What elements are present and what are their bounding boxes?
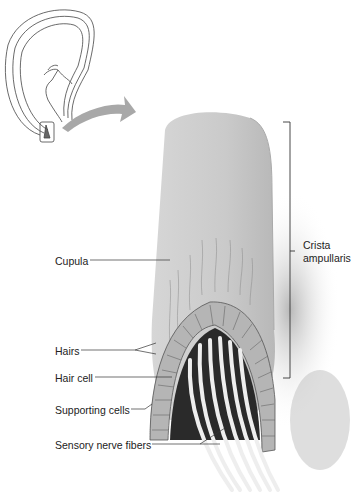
label-hairs: Hairs — [55, 345, 80, 357]
label-crista-line1: Crista — [303, 239, 330, 251]
label-supporting-cells: Supporting cells — [55, 404, 130, 416]
label-crista-line2: ampullaris — [303, 252, 351, 264]
diagram-canvas: Cupula Hairs Hair cell Supporting cells … — [0, 0, 363, 493]
label-cupula: Cupula — [55, 255, 88, 267]
label-sensory-nerve-fibers: Sensory nerve fibers — [55, 439, 151, 451]
label-hair-cell: Hair cell — [55, 372, 93, 384]
